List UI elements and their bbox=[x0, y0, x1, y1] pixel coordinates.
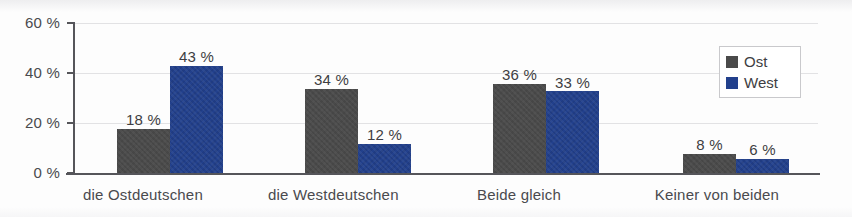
legend: Ost West bbox=[719, 46, 801, 98]
y-tick-60 bbox=[67, 22, 74, 24]
value-label-west-0: 43 % bbox=[170, 48, 223, 65]
bar-west-3 bbox=[736, 159, 789, 174]
bar-ost-0 bbox=[117, 129, 170, 174]
x-axis-label-0: die Ostdeutschen bbox=[80, 186, 206, 203]
x-axis-line bbox=[66, 173, 820, 175]
y-tick-20 bbox=[67, 122, 74, 124]
y-axis-label-60: 60 % bbox=[0, 14, 60, 31]
legend-swatch-west-icon bbox=[726, 77, 738, 89]
bar-ost-1 bbox=[305, 89, 358, 175]
legend-item-west: West bbox=[726, 72, 794, 93]
value-label-west-3: 6 % bbox=[736, 141, 789, 158]
gridline-60 bbox=[74, 23, 818, 24]
x-axis-label-2: Beide gleich bbox=[456, 186, 582, 203]
legend-swatch-ost-icon bbox=[726, 56, 738, 68]
value-label-west-2: 33 % bbox=[546, 74, 599, 91]
value-label-west-1: 12 % bbox=[358, 126, 411, 143]
y-axis-line bbox=[73, 22, 75, 175]
legend-label-west: West bbox=[744, 75, 778, 90]
x-axis-label-3: Keiner von beiden bbox=[644, 186, 790, 203]
x-axis-label-1: die Westdeutschen bbox=[268, 186, 394, 203]
bar-ost-3 bbox=[683, 154, 736, 174]
y-axis-label-40: 40 % bbox=[0, 64, 60, 81]
legend-item-ost: Ost bbox=[726, 51, 794, 72]
value-label-ost-0: 18 % bbox=[117, 111, 170, 128]
y-tick-40 bbox=[67, 72, 74, 74]
bar-west-0 bbox=[170, 66, 223, 174]
y-tick-0 bbox=[67, 172, 74, 174]
bar-chart: 60 % 40 % 20 % 0 % 18 % 43 % 34 % 12 % 3… bbox=[0, 0, 852, 217]
legend-label-ost: Ost bbox=[744, 54, 767, 69]
y-axis-label-20: 20 % bbox=[0, 114, 60, 131]
value-label-ost-3: 8 % bbox=[683, 136, 736, 153]
bar-ost-2 bbox=[493, 84, 546, 175]
bar-west-2 bbox=[546, 91, 599, 174]
y-axis-label-0: 0 % bbox=[0, 164, 60, 181]
bar-west-1 bbox=[358, 144, 411, 174]
cropped-title-remnant bbox=[120, 0, 740, 6]
value-label-ost-2: 36 % bbox=[493, 66, 546, 83]
value-label-ost-1: 34 % bbox=[305, 71, 358, 88]
